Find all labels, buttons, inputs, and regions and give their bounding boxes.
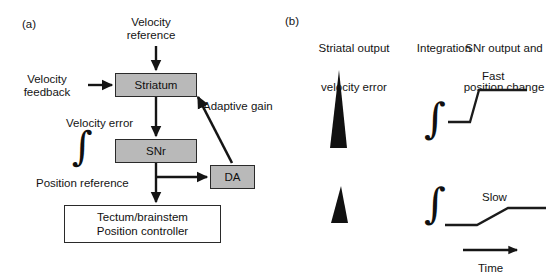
triangle-striatal-error-slow — [331, 186, 348, 223]
figure-root: (a) (b) Velocity reference Velocity feed… — [0, 0, 556, 278]
triangle-striatal-error-fast — [330, 70, 347, 148]
trace-snr-output-fast — [448, 90, 527, 122]
arrow-da-to-striatum-adaptive-gain — [198, 97, 232, 163]
diagram-vector-overlay — [0, 0, 556, 278]
trace-snr-output-slow — [445, 208, 546, 225]
